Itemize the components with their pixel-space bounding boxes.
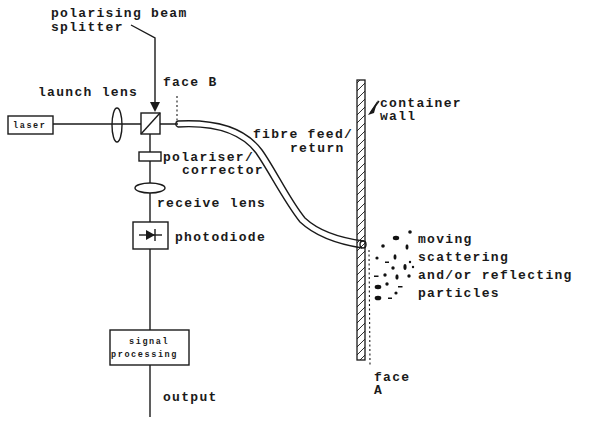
beam-splitter-arrow-icon [150,102,160,112]
launch-lens-label: launch lens [38,85,138,100]
particles-label-line4: particles [418,286,500,301]
laser-label: laser [13,121,47,131]
particles-label-line3: and/or reflecting [418,268,573,283]
face-b-label: face B [163,75,218,90]
receive-lens [135,183,165,193]
polariser-corrector [139,152,161,161]
signal-label-line2: processing [111,350,178,360]
face-a-marker [369,250,370,366]
fibre-label-line1: fibre feed/ [253,127,353,142]
particles-label-line2: scattering [418,250,509,265]
launch-lens [112,108,122,142]
container-arrow-icon [368,100,378,115]
particles [374,230,414,300]
polarising-beam-splitter [141,113,160,134]
photodiode-block [133,222,168,249]
photodiode-label: photodiode [175,230,266,245]
laser-block: laser [8,116,53,134]
container-wall [357,80,365,360]
container-label-line2: wall [380,109,416,124]
output-label: output [163,390,218,405]
fibre-label-line2: return [290,141,345,156]
face-a-label-line2: A [374,383,383,398]
signal-processing-block: signal processing [110,330,189,365]
receive-lens-label: receive lens [157,196,266,211]
diagram-canvas: polarising beam splitter launch lens fac… [0,0,590,421]
particles-label-line1: moving [418,232,473,247]
optical-diagram: polarising beam splitter launch lens fac… [0,0,590,421]
beam-splitter-label-line1: polarising beam [51,6,188,21]
signal-label-line1: signal [129,337,169,347]
beam-splitter-label-line2: splitter [51,20,124,35]
polariser-label-line2: corrector [182,163,264,178]
